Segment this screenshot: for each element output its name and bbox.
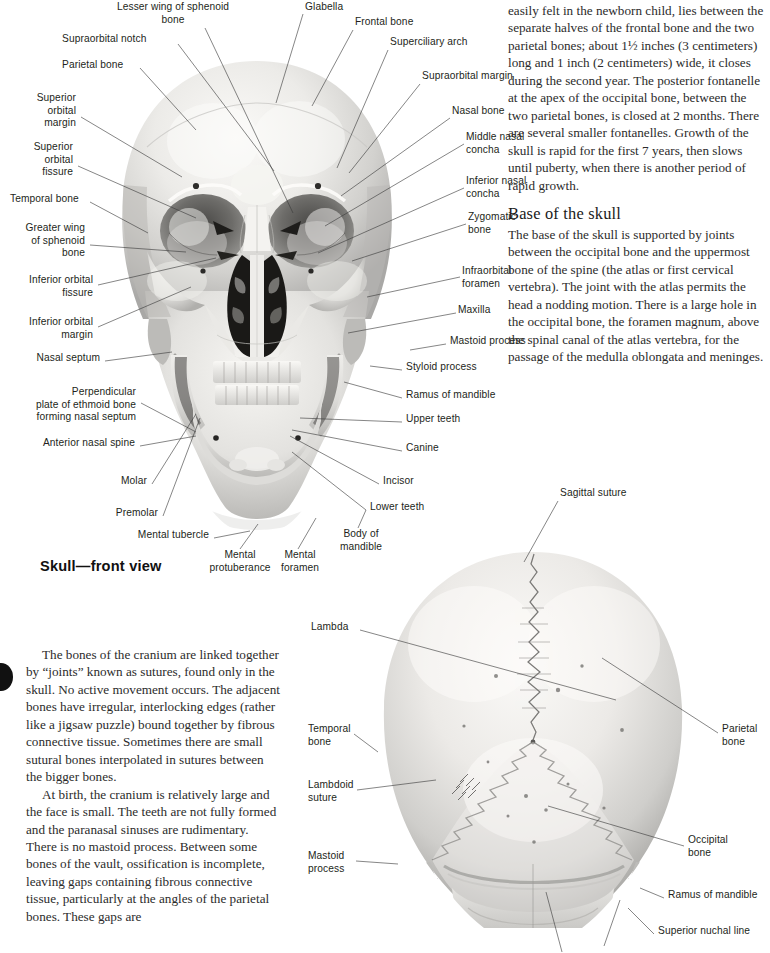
label-body-of-mandible: Body of mandible [330,528,392,553]
page-edge-marker [0,663,13,691]
paragraph-fontanelle-continued: easily felt in the newborn child, lies b… [508,2,766,194]
label-lambda: Lambda [311,621,348,634]
label-lower-teeth: Lower teeth [370,501,424,514]
paragraph-at-birth: At birth, the cranium is relatively larg… [26,786,281,926]
label-supraorbital-notch: Supraorbital notch [62,33,146,46]
label-temporal-bone-back: Temporal bone [308,723,351,748]
label-superior-orbital-fissure: Superior orbital fissure [0,141,73,179]
label-maxilla: Maxilla [458,304,490,317]
label-mental-tubercle: Mental tubercle [110,529,209,542]
anatomy-page: Lesser wing of sphenoid bone Supraorbita… [0,0,770,953]
label-ramus-of-mandible: Ramus of mandible [406,389,495,402]
label-upper-teeth: Upper teeth [406,413,460,426]
label-perpendicular-plate-of-ethmoid-bone: Perpendicular plate of ethmoid bone form… [0,386,136,424]
label-sagittal-suture: Sagittal suture [560,487,627,500]
label-molar: Molar [80,475,147,488]
skull-back-view-image [368,548,698,953]
section-heading-base-of-the-skull: Base of the skull [508,203,766,224]
label-lesser-wing-of-sphenoid-bone: Lesser wing of sphenoid bone [88,1,258,26]
label-inferior-orbital-fissure: Inferior orbital fissure [0,274,93,299]
label-mental-foramen: Mental foramen [272,549,328,574]
right-text-column: easily felt in the newborn child, lies b… [508,2,766,366]
figure-caption-front-view: Skull—front view [40,558,162,574]
label-nasal-bone: Nasal bone [452,105,505,118]
label-superior-nuchal-line: Superior nuchal line [658,925,750,938]
label-infraorbital-foramen: Infraorbital foramen [462,265,511,290]
label-ramus-of-mandible-back: Ramus of mandible [668,889,757,902]
left-text-column: The bones of the cranium are linked toge… [26,646,281,925]
label-inferior-orbital-margin: Inferior orbital margin [0,316,93,341]
label-temporal-bone: Temporal bone [10,193,79,206]
label-parietal-bone-back: Parietal bone [722,723,757,748]
paragraph-cranium-sutures: The bones of the cranium are linked toge… [26,646,281,786]
label-occipital-bone: Occipital bone [688,834,728,859]
label-glabella: Glabella [305,1,343,14]
label-anterior-nasal-spine: Anterior nasal spine [0,437,135,450]
label-premolar: Premolar [80,507,158,520]
label-parietal-bone: Parietal bone [62,59,123,72]
paragraph-base-of-the-skull: The base of the skull is supported by jo… [508,226,766,366]
label-mental-protuberance: Mental protuberance [196,549,284,574]
label-incisor: Incisor [383,475,414,488]
label-superior-orbital-margin: Superior orbital margin [0,92,76,130]
label-nasal-septum: Nasal septum [0,352,100,365]
label-superciliary-arch: Superciliary arch [390,36,468,49]
label-styloid-process: Styloid process [406,361,477,374]
label-lambdoid-suture: Lambdoid suture [308,779,354,804]
label-supraorbital-margin: Supraorbital margin [422,70,513,83]
label-frontal-bone: Frontal bone [355,16,413,29]
label-greater-wing-of-sphenoid-bone: Greater wing of sphenoid bone [0,222,85,260]
label-mastoid-process-back: Mastoid process [308,850,344,875]
label-canine: Canine [406,442,439,455]
